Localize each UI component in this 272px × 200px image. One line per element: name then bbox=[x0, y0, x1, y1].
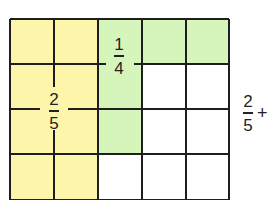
numerator: 1 bbox=[114, 36, 123, 53]
grid-line-vertical bbox=[53, 19, 55, 87]
side-fraction: 2 5 bbox=[243, 93, 253, 134]
grid-cell bbox=[10, 109, 54, 154]
grid-cell bbox=[98, 109, 142, 154]
grid-line-horizontal bbox=[10, 153, 229, 155]
grid-cell bbox=[142, 109, 186, 154]
grid-cell bbox=[186, 64, 229, 109]
grid-line-horizontal bbox=[10, 199, 229, 200]
grid-cell bbox=[186, 19, 229, 64]
grid-cell bbox=[10, 19, 54, 64]
grid-cell bbox=[54, 64, 98, 109]
numerator: 2 bbox=[243, 93, 252, 110]
grid-line-horizontal bbox=[68, 108, 229, 110]
fraction-bar bbox=[114, 55, 124, 57]
grid-cell bbox=[54, 154, 98, 200]
grid-line-horizontal bbox=[10, 108, 40, 110]
grid-cell bbox=[142, 154, 186, 200]
numerator: 2 bbox=[49, 91, 58, 108]
grid-cell bbox=[98, 154, 142, 200]
grid-cell bbox=[142, 64, 186, 109]
fraction-bar bbox=[49, 110, 59, 112]
grid-cell bbox=[54, 19, 98, 64]
fraction-bar bbox=[243, 112, 253, 114]
grid-line-vertical bbox=[53, 130, 55, 200]
grid-line-horizontal bbox=[10, 18, 229, 20]
grid-line-horizontal bbox=[134, 63, 229, 65]
denominator: 5 bbox=[49, 115, 58, 132]
denominator: 4 bbox=[114, 60, 123, 77]
grid-cell bbox=[186, 154, 229, 200]
grid-cell bbox=[142, 19, 186, 64]
grid-cell bbox=[10, 64, 54, 109]
grid-cell bbox=[54, 109, 98, 154]
grid-cell bbox=[10, 154, 54, 200]
plus-sign: + bbox=[257, 103, 268, 124]
grid-cell bbox=[186, 109, 229, 154]
fraction-label-two-fifths: 2 5 bbox=[49, 91, 59, 132]
grid-line-horizontal bbox=[10, 63, 106, 65]
denominator: 5 bbox=[243, 117, 252, 134]
side-expression: 2 5 + bbox=[243, 93, 268, 134]
fraction-label-one-quarter: 1 4 bbox=[114, 36, 124, 77]
